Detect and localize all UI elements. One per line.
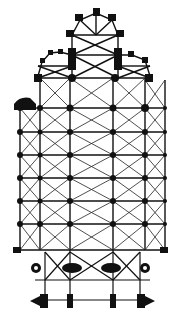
west-porch <box>35 250 150 300</box>
cathedral-floor-plan <box>0 0 180 325</box>
